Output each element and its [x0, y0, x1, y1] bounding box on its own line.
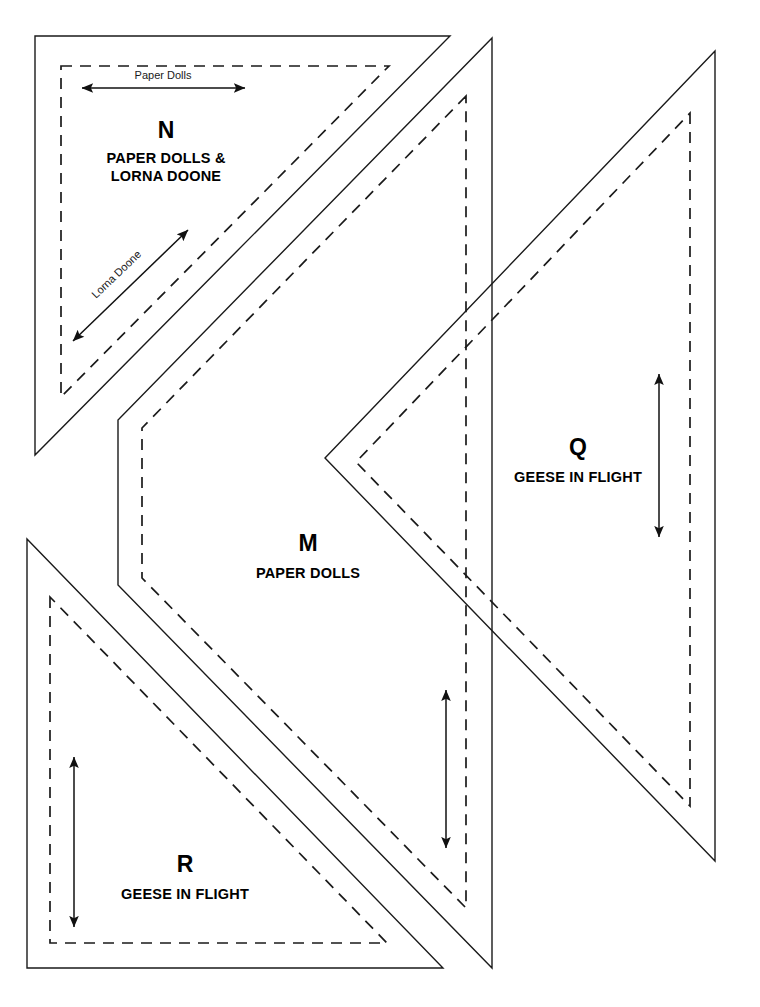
grain-label-n-lorna-doone: Lorna Doone	[89, 248, 143, 301]
grain-label-n-paper-dolls: Paper Dolls	[135, 69, 192, 81]
seam-line-m	[142, 96, 466, 908]
template-letter-m: M	[298, 530, 317, 556]
template-name-n-line1: PAPER DOLLS &	[106, 150, 225, 166]
template-name-n-line2: LORNA DOONE	[111, 168, 222, 184]
template-piece-r[interactable]: R GEESE IN FLIGHT	[27, 539, 443, 968]
template-name-q-line1: GEESE IN FLIGHT	[514, 469, 642, 485]
seam-line-n	[61, 66, 389, 397]
cut-line-r	[27, 539, 443, 968]
template-name-r-line1: GEESE IN FLIGHT	[121, 886, 249, 902]
template-name-m-line1: PAPER DOLLS	[256, 565, 360, 581]
seam-line-q	[356, 113, 690, 806]
template-letter-r: R	[177, 851, 194, 877]
template-letter-q: Q	[569, 434, 587, 460]
template-piece-q[interactable]: Q GEESE IN FLIGHT	[325, 51, 715, 861]
template-letter-n: N	[158, 117, 175, 143]
template-drawing-canvas: Paper Dolls Lorna Doone N PAPER DOLLS & …	[0, 0, 760, 1007]
cut-line-q	[325, 51, 715, 861]
pattern-sheet: Paper Dolls Lorna Doone N PAPER DOLLS & …	[0, 0, 760, 1007]
